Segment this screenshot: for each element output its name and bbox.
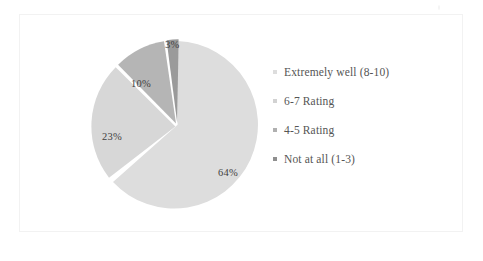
chart-legend: Extremely well (8-10) 6-7 Rating 4-5 Rat… — [273, 57, 448, 173]
scan-speck — [438, 5, 440, 10]
legend-item-not-at-all[interactable]: Not at all (1-3) — [273, 144, 448, 173]
pie-chart-svg — [86, 31, 266, 213]
chart-card: 64% 23% 10% 3% Extremely well (8-10) 6-7… — [19, 14, 463, 232]
pie-label-3: 3% — [165, 39, 179, 50]
pie-chart: 64% 23% 10% 3% — [86, 31, 266, 213]
pie-label-10: 10% — [131, 78, 151, 89]
pie-label-23: 23% — [102, 131, 122, 142]
legend-item-label: 4-5 Rating — [284, 124, 334, 136]
legend-item-label: Extremely well (8-10) — [284, 66, 389, 78]
legend-marker-icon — [273, 99, 277, 103]
legend-item-label: Not at all (1-3) — [284, 153, 355, 165]
legend-marker-icon — [273, 157, 277, 161]
legend-item-6-7-rating[interactable]: 6-7 Rating — [273, 86, 448, 115]
legend-marker-icon — [273, 128, 277, 132]
legend-item-label: 6-7 Rating — [284, 95, 334, 107]
legend-item-extremely-well[interactable]: Extremely well (8-10) — [273, 57, 448, 86]
legend-item-4-5-rating[interactable]: 4-5 Rating — [273, 115, 448, 144]
legend-marker-icon — [273, 70, 277, 74]
pie-label-64: 64% — [218, 167, 238, 178]
